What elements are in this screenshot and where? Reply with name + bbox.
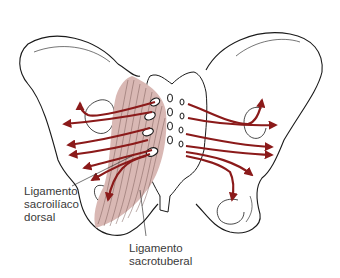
label-line: dorsal	[24, 211, 79, 224]
label-sacroiliac-dorsal-ligament: Ligamento sacroilíaco dorsal	[24, 185, 79, 224]
label-line: sacroilíaco	[24, 198, 79, 211]
label-line: sacrotuberal	[129, 255, 192, 268]
sacroiliac-ligament	[94, 76, 166, 228]
right-ilium	[196, 33, 322, 233]
label-line: Ligamento	[24, 185, 79, 198]
label-line: Ligamento	[129, 242, 192, 255]
pelvis-diagram	[0, 0, 340, 278]
label-sacrotuberal-ligament: Ligamento sacrotuberal	[129, 242, 192, 268]
